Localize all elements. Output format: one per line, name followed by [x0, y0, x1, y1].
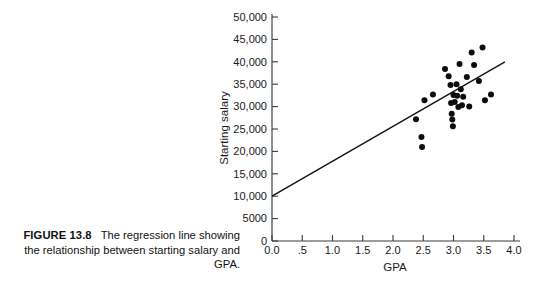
- data-point: [457, 61, 463, 67]
- x-tick-label: 1.5: [355, 244, 370, 256]
- figure-container: 0500010,00015,00020,00025,00030,00035,00…: [0, 0, 552, 293]
- data-point: [442, 66, 448, 72]
- x-axis-tick-labels: 0.0.51.01.52.02.53.03.54.0: [264, 244, 521, 256]
- regression-line: [272, 62, 505, 196]
- y-axis-tick-marks: [272, 17, 278, 241]
- data-point: [447, 82, 453, 88]
- data-point: [421, 97, 427, 103]
- data-point-group: [413, 44, 494, 149]
- x-tick-label: .5: [298, 244, 307, 256]
- y-tick-label: 45,000: [233, 33, 267, 45]
- data-point: [488, 92, 494, 98]
- y-axis-title: Starting salary: [218, 91, 230, 165]
- data-point: [449, 111, 455, 117]
- y-tick-label: 50,000: [233, 11, 267, 23]
- figure-number: FIGURE 13.8: [23, 229, 91, 241]
- y-tick-label: 30,000: [233, 100, 267, 112]
- data-point: [449, 117, 455, 123]
- data-point: [464, 74, 470, 80]
- data-point: [460, 94, 466, 100]
- y-tick-label: 25,000: [233, 123, 267, 135]
- data-point: [454, 93, 460, 99]
- data-point: [459, 102, 465, 108]
- figure-caption: FIGURE 13.8The regression line showing t…: [6, 228, 240, 272]
- data-point: [430, 92, 436, 98]
- data-point: [476, 78, 482, 84]
- x-tick-label: 2.0: [385, 244, 400, 256]
- data-point: [419, 144, 425, 150]
- data-point: [469, 49, 475, 55]
- y-tick-label: 20,000: [233, 145, 267, 157]
- x-tick-label: 4.0: [506, 244, 521, 256]
- data-point: [450, 123, 456, 129]
- y-tick-label: 10,000: [233, 190, 267, 202]
- data-point: [466, 104, 472, 110]
- x-tick-label: 1.0: [325, 244, 340, 256]
- data-point: [482, 97, 488, 103]
- y-tick-label: 35,000: [233, 78, 267, 90]
- data-point: [471, 62, 477, 68]
- y-tick-label: 40,000: [233, 56, 267, 68]
- y-tick-label: 15,000: [233, 168, 267, 180]
- y-tick-label: 5000: [243, 212, 267, 224]
- y-axis-tick-labels: 0500010,00015,00020,00025,00030,00035,00…: [233, 11, 267, 247]
- x-tick-label: 2.5: [416, 244, 431, 256]
- x-tick-label: 3.0: [446, 244, 461, 256]
- data-point: [413, 116, 419, 122]
- data-point: [452, 99, 458, 105]
- data-point: [418, 134, 424, 140]
- data-point: [446, 73, 452, 79]
- x-axis-tick-marks: [272, 235, 514, 241]
- data-point: [458, 86, 464, 92]
- x-tick-label: 0.0: [264, 244, 279, 256]
- data-point: [454, 81, 460, 87]
- data-point: [480, 44, 486, 50]
- x-tick-label: 3.5: [476, 244, 491, 256]
- x-axis-title: GPA: [383, 261, 407, 273]
